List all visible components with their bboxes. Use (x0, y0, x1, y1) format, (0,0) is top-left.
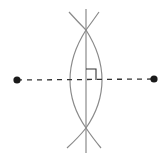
diagram-canvas: Perpendicular bisector construction (0, 0, 167, 159)
right-angle-marker (86, 69, 96, 80)
bisector-figure: Perpendicular bisector construction (0, 0, 167, 159)
cropped-caption (0, 0, 167, 2)
point-b (150, 75, 157, 82)
point-a (13, 76, 20, 83)
